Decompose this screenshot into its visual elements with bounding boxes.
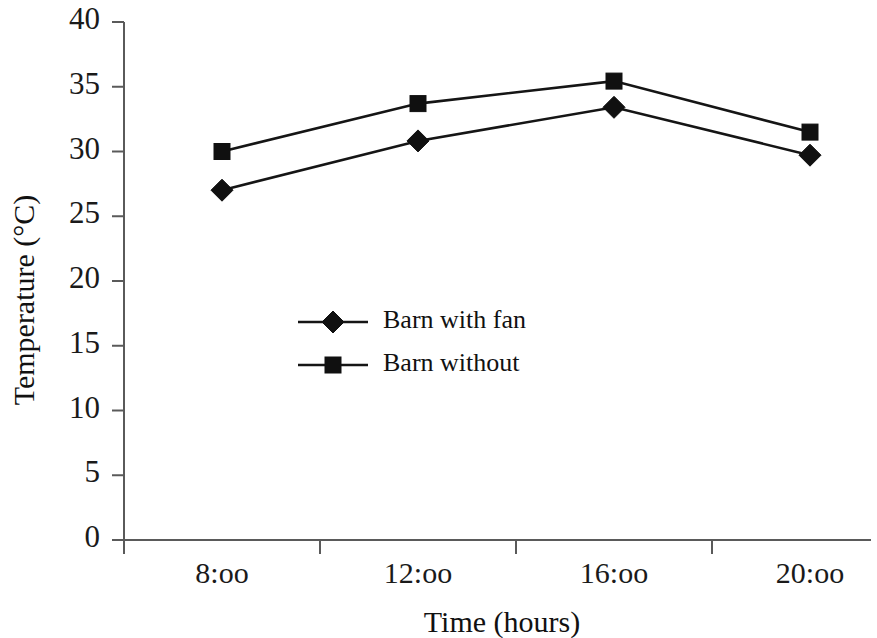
square-marker-icon — [410, 96, 426, 112]
x-tick-label-0: 8:oo — [195, 556, 248, 589]
y-tick-label-0: 0 — [85, 519, 101, 554]
legend-label-barn-with-fan: Barn with fan — [383, 305, 526, 334]
chart-canvas: 40 35 30 25 20 15 10 5 0 8:oo 12:oo 16:o… — [0, 0, 877, 638]
y-tick-label-40: 40 — [69, 1, 100, 36]
y-tick-label-25: 25 — [69, 195, 100, 230]
temperature-line-chart: 40 35 30 25 20 15 10 5 0 8:oo 12:oo 16:o… — [0, 0, 877, 638]
y-tick-label-20: 20 — [69, 260, 100, 295]
x-axis-title: Time (hours) — [424, 605, 580, 638]
x-tick-label-3: 20:oo — [776, 556, 844, 589]
y-tick-label-5: 5 — [85, 454, 101, 489]
square-marker-icon — [802, 124, 818, 140]
x-tick-label-2: 16:oo — [580, 556, 648, 589]
square-marker-icon — [214, 144, 230, 160]
y-tick-label-15: 15 — [69, 325, 100, 360]
square-marker-icon — [325, 357, 341, 373]
y-tick-label-30: 30 — [69, 131, 100, 166]
y-axis-title: Temperature (°C) — [7, 195, 41, 406]
square-marker-icon — [606, 73, 622, 89]
y-tick-label-10: 10 — [69, 390, 100, 425]
x-tick-label-1: 12:oo — [384, 556, 452, 589]
y-tick-label-35: 35 — [69, 66, 100, 101]
legend-label-barn-without: Barn without — [383, 348, 520, 377]
